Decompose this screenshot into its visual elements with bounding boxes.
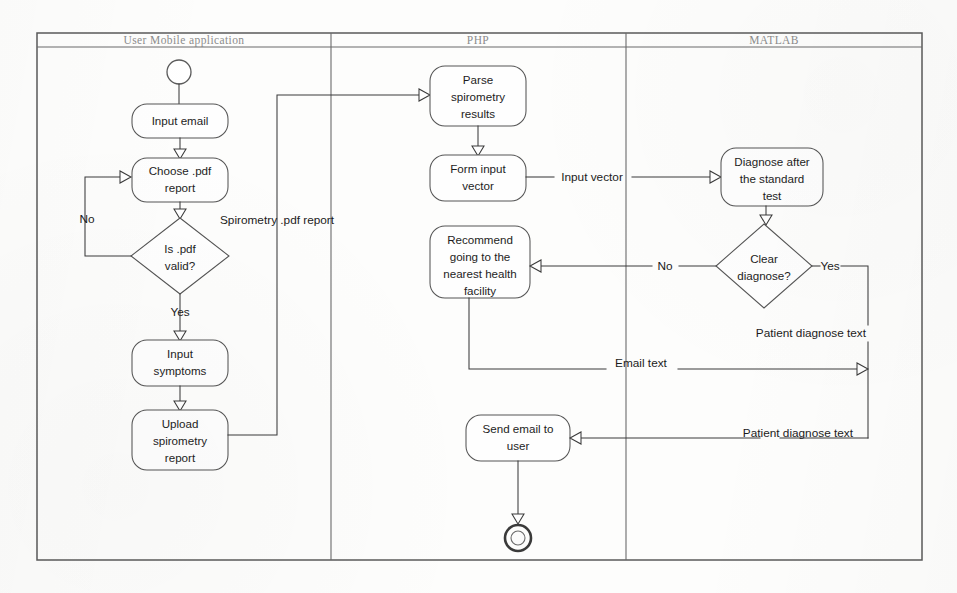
decision-is-pdf-valid-label-line1: Is .pdf — [164, 242, 196, 255]
action-send-email-label-line1: Send email to — [483, 422, 554, 435]
arrowhead-no-loop-back — [120, 171, 131, 183]
action-upload-spirometry-label-line1: Upload — [162, 417, 199, 430]
action-choose-pdf-report-label-line2: report — [165, 181, 196, 194]
decision-is-pdf-valid-label-line2: valid? — [165, 259, 196, 272]
action-parse-spirometry-label-line2: spirometry — [451, 90, 505, 103]
final-node-inner — [511, 531, 525, 545]
action-input-symptoms-label-line2: symptoms — [154, 364, 207, 377]
guard-label-yes-clear: Yes — [820, 259, 839, 273]
arrowhead-to-diagnose-standard — [710, 171, 721, 183]
arrowhead-to-parse-spirometry — [419, 89, 430, 101]
action-recommend-facility-label-line3: nearest health — [443, 267, 516, 280]
lane-title-php: PHP — [467, 34, 489, 46]
action-diagnose-standard-label-line1: Diagnose after — [734, 155, 810, 168]
arrowhead-to-send-email — [570, 432, 581, 444]
action-send-email-label-line2: user — [507, 439, 530, 452]
edge-label-patient-diagnose-text-1: Patient diagnose text — [756, 326, 867, 340]
action-recommend-facility-label-line1: Recommend — [447, 233, 513, 246]
action-choose-pdf-report-label-line1: Choose .pdf — [149, 164, 212, 177]
arrowhead-to-recommend-facility — [530, 260, 541, 272]
action-diagnose-standard-label-line2: the standard — [740, 172, 804, 185]
action-upload-spirometry-label-line3: report — [165, 451, 196, 464]
diagram-svg: User Mobile application PHP MATLAB Input… — [0, 0, 957, 593]
lane-title-matlab: MATLAB — [749, 34, 799, 46]
guard-label-yes-pdf: Yes — [170, 305, 189, 319]
guard-label-no-pdf: No — [79, 212, 95, 226]
action-recommend-facility-label-line4: facility — [464, 284, 496, 297]
flow-yes-clear-to-vertical — [841, 266, 868, 325]
decision-is-pdf-valid[interactable] — [131, 218, 229, 294]
action-form-input-vector-label-line1: Form input — [450, 162, 506, 175]
flow-spirometry-pdf-report — [228, 95, 420, 435]
action-upload-spirometry-label-line2: spirometry — [153, 434, 207, 447]
initial-node — [167, 60, 191, 84]
activity-diagram-canvas: User Mobile application PHP MATLAB Input… — [0, 0, 957, 593]
arrowhead-email-text — [857, 363, 868, 375]
decision-clear-diagnose[interactable] — [716, 224, 812, 308]
arrowhead-to-clear-diagnose — [760, 215, 772, 225]
lane-title-user: User Mobile application — [124, 34, 245, 47]
edge-label-email-text: Email text — [615, 356, 668, 370]
flow-email-text-segment-a — [469, 298, 606, 369]
edge-label-spirometry-pdf-report: Spirometry .pdf report — [220, 213, 335, 227]
action-form-input-vector-label-line2: vector — [462, 179, 494, 192]
decision-clear-diagnose-label-line2: diagnose? — [737, 269, 791, 282]
action-input-symptoms-label-line1: Input — [167, 347, 194, 360]
action-recommend-facility-label-line2: going to the — [450, 250, 511, 263]
action-parse-spirometry-label-line1: Parse — [463, 73, 493, 86]
guard-label-no-clear: No — [657, 259, 673, 273]
edge-label-patient-diagnose-text-2: Patient diagnose text — [743, 426, 854, 440]
edge-label-input-vector: Input vector — [561, 170, 623, 184]
action-input-email-label: Input email — [152, 114, 209, 127]
decision-clear-diagnose-label-line1: Clear — [750, 252, 778, 265]
action-parse-spirometry-label-line3: results — [461, 107, 495, 120]
action-diagnose-standard-label-line3: test — [763, 189, 782, 202]
arrowhead-to-final-node — [512, 514, 524, 524]
